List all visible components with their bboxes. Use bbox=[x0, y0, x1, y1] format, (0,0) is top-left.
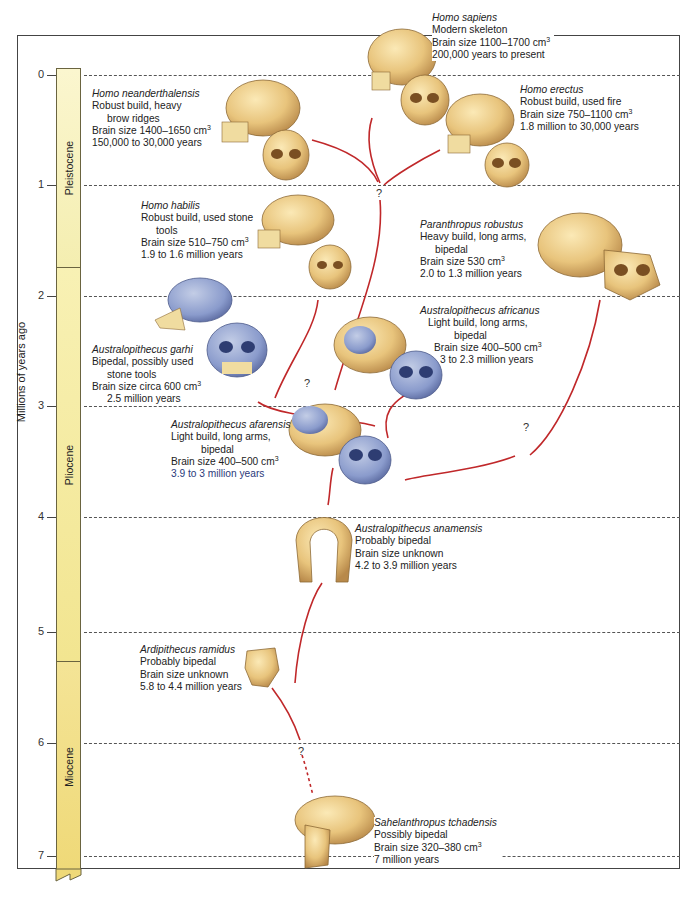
skull-homo-neanderthalensis bbox=[222, 80, 309, 180]
species-trait: Heavy build, long arms, bbox=[420, 231, 526, 243]
species-name: Paranthropus robustus bbox=[420, 219, 526, 231]
species-homo-habilis: Homo habilis Robust build, used stone to… bbox=[141, 200, 253, 261]
species-brain-size: Brain size 530 cm3 bbox=[420, 256, 526, 268]
species-brain-size: Brain size circa 600 cm3 bbox=[92, 381, 201, 393]
skull-paranthropus-robustus bbox=[538, 213, 660, 300]
species-paranthropus-robustus: Paranthropus robustus Heavy build, long … bbox=[420, 219, 526, 280]
species-age: 7 million years bbox=[374, 854, 497, 866]
species-brain-size: Brain size 750–1100 cm3 bbox=[520, 109, 639, 121]
species-trait: bipedal bbox=[171, 444, 290, 456]
species-brain-size: Brain size 1100–1700 cm3 bbox=[432, 37, 550, 49]
species-trait: tools bbox=[141, 225, 253, 237]
species-name: Homo sapiens bbox=[432, 12, 550, 24]
brain-size-text: Brain size 510–750 cm bbox=[141, 237, 245, 248]
species-sahelanthropus-tchadensis: Sahelanthropus tchadensis Possibly biped… bbox=[374, 817, 501, 866]
species-age: 3 to 2.3 million years bbox=[420, 354, 542, 366]
species-age: 2.0 to 1.3 million years bbox=[420, 268, 526, 280]
tooth-ardipithecus-ramidus bbox=[245, 648, 279, 687]
brain-size-text: Brain size 750–1100 cm bbox=[520, 109, 629, 120]
brain-size-text: Brain size 1100–1700 cm bbox=[432, 37, 546, 48]
species-trait: Light build, long arms, bbox=[171, 431, 290, 443]
species-trait: Light build, long arms, bbox=[420, 317, 542, 329]
uncertain-marker: ? bbox=[523, 421, 529, 433]
species-australopithecus-afarensis: Australopithecus afarensis Light build, … bbox=[171, 419, 290, 480]
species-brain-size: Brain size unknown bbox=[140, 669, 242, 681]
species-name: Australopithecus afarensis bbox=[171, 419, 290, 431]
species-name: Australopithecus garhi bbox=[92, 344, 201, 356]
species-trait: Bipedal, possibly used bbox=[92, 356, 201, 368]
species-trait: Probably bipedal bbox=[140, 656, 242, 668]
species-trait: brow ridges bbox=[92, 113, 211, 125]
species-name: Homo habilis bbox=[141, 200, 253, 212]
brain-size-text: Brain size 530 cm bbox=[420, 256, 501, 267]
superscript: 3 bbox=[197, 380, 201, 387]
species-name: Homo erectus bbox=[520, 84, 639, 96]
species-age: 5.8 to 4.4 million years bbox=[140, 681, 242, 693]
skull-sahelanthropus-tchadensis bbox=[295, 796, 375, 868]
skull-homo-habilis bbox=[258, 195, 351, 289]
brain-size-text: Brain size 400–500 cm bbox=[171, 456, 275, 467]
species-australopithecus-garhi: Australopithecus garhi Bipedal, possibly… bbox=[92, 344, 201, 405]
species-trait: Robust build, heavy bbox=[92, 100, 211, 112]
uncertain-marker: ? bbox=[304, 377, 310, 389]
uncertain-marker: ? bbox=[376, 187, 382, 199]
species-brain-size: Brain size 1400–1650 cm3 bbox=[92, 125, 211, 137]
species-age: 2.5 million years bbox=[92, 393, 201, 405]
skull-homo-erectus bbox=[446, 94, 529, 187]
species-australopithecus-anamensis: Australopithecus anamensis Probably bipe… bbox=[355, 523, 482, 572]
skull-australopithecus-afarensis bbox=[289, 404, 391, 484]
species-brain-size: Brain size unknown bbox=[355, 548, 482, 560]
species-ardipithecus-ramidus: Ardipithecus ramidus Probably bipedal Br… bbox=[140, 644, 242, 693]
species-homo-erectus: Homo erectus Robust build, used fire Bra… bbox=[520, 84, 639, 133]
superscript: 3 bbox=[275, 455, 279, 462]
superscript: 3 bbox=[478, 840, 482, 847]
species-trait: Robust build, used fire bbox=[520, 96, 639, 108]
species-name: Homo neanderthalensis bbox=[92, 88, 211, 100]
species-brain-size: Brain size 400–500 cm3 bbox=[420, 342, 542, 354]
species-name: Sahelanthropus tchadensis bbox=[374, 817, 497, 829]
species-age: 1.8 million to 30,000 years bbox=[520, 121, 639, 133]
superscript: 3 bbox=[207, 124, 211, 131]
species-trait: stone tools bbox=[92, 369, 201, 381]
superscript: 3 bbox=[546, 35, 550, 42]
species-trait: Robust build, used stone bbox=[141, 212, 253, 224]
species-brain-size: Brain size 400–500 cm3 bbox=[171, 456, 290, 468]
species-name: Ardipithecus ramidus bbox=[140, 644, 242, 656]
species-age: 3.9 to 3 million years bbox=[171, 468, 290, 480]
jaw-australopithecus-anamensis bbox=[296, 518, 352, 583]
brain-size-text: Brain size 1400–1650 cm bbox=[92, 125, 207, 136]
superscript: 3 bbox=[501, 255, 505, 262]
species-age: 150,000 to 30,000 years bbox=[92, 137, 211, 149]
species-name: Australopithecus africanus bbox=[420, 305, 542, 317]
species-homo-sapiens: Homo sapiens Modern skeleton Brain size … bbox=[432, 12, 554, 61]
species-brain-size: Brain size 510–750 cm3 bbox=[141, 237, 253, 249]
species-brain-size: Brain size 320–380 cm3 bbox=[374, 842, 497, 854]
brain-size-text: Brain size circa 600 cm bbox=[92, 381, 197, 392]
species-homo-neanderthalensis: Homo neanderthalensis Robust build, heav… bbox=[92, 88, 211, 149]
brain-size-text: Brain size 400–500 cm bbox=[434, 342, 538, 353]
superscript: 3 bbox=[538, 341, 542, 348]
species-australopithecus-africanus: Australopithecus africanus Light build, … bbox=[420, 305, 542, 366]
species-trait: bipedal bbox=[420, 244, 526, 256]
brain-size-text: Brain size 320–380 cm bbox=[374, 842, 478, 853]
species-age: 4.2 to 3.9 million years bbox=[355, 560, 482, 572]
superscript: 3 bbox=[245, 236, 249, 243]
species-trait: Modern skeleton bbox=[432, 24, 550, 36]
species-name: Australopithecus anamensis bbox=[355, 523, 482, 535]
uncertain-marker: ? bbox=[298, 745, 304, 757]
species-trait: bipedal bbox=[420, 330, 542, 342]
species-age: 200,000 years to present bbox=[432, 49, 550, 61]
species-trait: Probably bipedal bbox=[355, 535, 482, 547]
species-age: 1.9 to 1.6 million years bbox=[141, 249, 253, 261]
superscript: 3 bbox=[629, 107, 633, 114]
